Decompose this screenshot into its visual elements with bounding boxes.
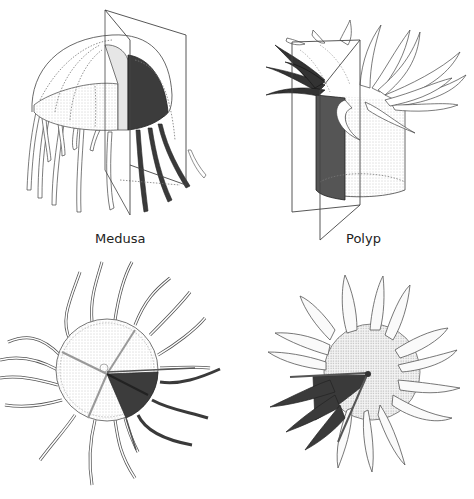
polyp-label: Polyp (346, 231, 381, 246)
polyp-side-view (266, 20, 466, 240)
medusa-label: Medusa (95, 231, 145, 246)
medusa-side-view (27, 10, 206, 215)
medusa-top-view (0, 262, 220, 485)
polyp-top-view (268, 275, 460, 472)
radial-symmetry-illustration: Medusa (0, 0, 474, 499)
